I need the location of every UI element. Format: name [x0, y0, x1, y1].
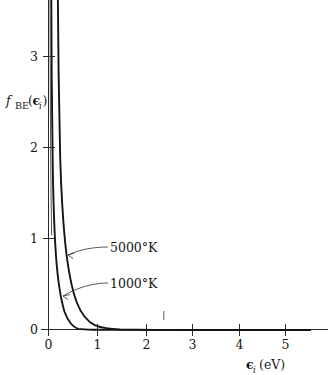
x-tick-label-4: 4	[236, 337, 244, 352]
bose-einstein-distribution-figure: 0 1 2 3 0 1 2 3 4 5 f BE ( ϵ i )	[0, 0, 330, 375]
y-axis-title-paren-close: )	[43, 93, 48, 108]
x-tick-label-0: 0	[45, 337, 53, 352]
x-tick-label-2: 2	[143, 337, 151, 352]
y-tick-label-3: 3	[30, 49, 38, 64]
leader-line-5000k	[68, 247, 108, 255]
chart-canvas: 0 1 2 3 0 1 2 3 4 5 f BE ( ϵ i )	[0, 0, 330, 375]
curve-label-5000k: 5000°K	[110, 240, 158, 255]
x-tick-label-3: 3	[189, 337, 197, 352]
x-axis-title-i-subscript: i	[253, 365, 256, 375]
y-axis-title-f: f	[5, 93, 13, 108]
leader-line-1000k	[63, 283, 108, 296]
annotation-1000k: 1000°K	[63, 276, 158, 300]
x-tick-label-5: 5	[282, 337, 290, 352]
annotation-5000k: 5000°K	[68, 240, 158, 259]
y-tick-label-1: 1	[30, 231, 38, 246]
x-axis-title-unit: (eV)	[259, 357, 285, 372]
y-axis-title: f BE ( ϵ i )	[5, 93, 47, 111]
leader-arrowhead-5000k	[68, 253, 75, 258]
curve-label-1000k: 1000°K	[110, 276, 158, 291]
y-axis-title-be-subscript: BE	[15, 100, 29, 111]
y-tick-label-0: 0	[30, 322, 38, 337]
x-tick-group: 0 1 2 3 4 5	[45, 324, 290, 353]
x-axis-title: ϵ i (eV)	[246, 357, 285, 375]
curve-5000k	[58, 0, 310, 330]
curve-1000k	[51, 0, 310, 330]
axis-group	[41, 0, 328, 330]
scan-artifact-speck	[163, 311, 164, 320]
y-tick-label-2: 2	[30, 140, 38, 155]
x-tick-label-1: 1	[94, 337, 102, 352]
